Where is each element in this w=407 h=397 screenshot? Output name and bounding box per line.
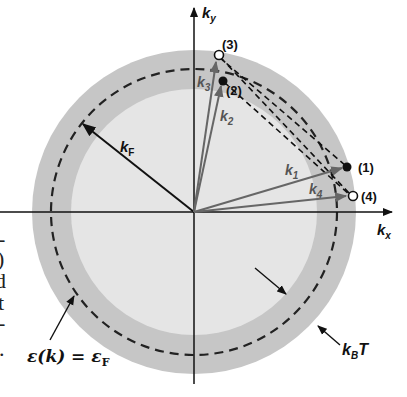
outer-thermal-pointer bbox=[318, 326, 340, 345]
fermi-surface-label: ε(k) = εF bbox=[27, 346, 110, 369]
edge-fragment-2: ) bbox=[0, 248, 4, 270]
edge-fragment-5: - bbox=[0, 312, 5, 334]
point-1 bbox=[343, 163, 352, 172]
ky-axis-label: ky bbox=[202, 4, 216, 24]
fermi-sphere-diagram: (1) (2) (3) (4) ky kx kF k1 k2 k3 k4 ε(k… bbox=[0, 0, 407, 397]
point-2-label: (2) bbox=[226, 83, 242, 98]
point-4 bbox=[349, 192, 358, 201]
kx-axis-label: kx bbox=[377, 221, 391, 241]
kbt-label: kBT bbox=[342, 341, 369, 361]
edge-fragment-3: d bbox=[0, 270, 6, 292]
point-4-label: (4) bbox=[361, 189, 377, 204]
point-3-label: (3) bbox=[222, 37, 238, 52]
point-1-label: (1) bbox=[358, 160, 374, 175]
edge-fragment-6: . bbox=[0, 338, 5, 360]
